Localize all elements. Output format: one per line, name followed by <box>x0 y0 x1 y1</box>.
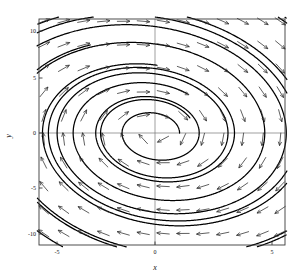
trajectory-path <box>285 17 286 18</box>
y-tick-label: -5 <box>31 185 36 191</box>
x-tick-label: 5 <box>271 249 274 255</box>
phase-portrait-figure: -5051050-5-10 x y <box>0 0 296 277</box>
phase-portrait-svg: -5051050-5-10 x y <box>0 0 296 277</box>
y-tick-label: 10 <box>30 28 36 34</box>
field-arrow-shaft <box>137 68 150 69</box>
x-axis-label: x <box>152 263 157 272</box>
x-tick-label: 0 <box>154 249 157 255</box>
y-tick-label: 0 <box>33 130 36 136</box>
x-tick-label: -5 <box>55 249 60 255</box>
y-tick-label: -10 <box>28 231 36 237</box>
y-axis-label: y <box>4 134 13 139</box>
y-tick-label: 5 <box>33 75 36 81</box>
